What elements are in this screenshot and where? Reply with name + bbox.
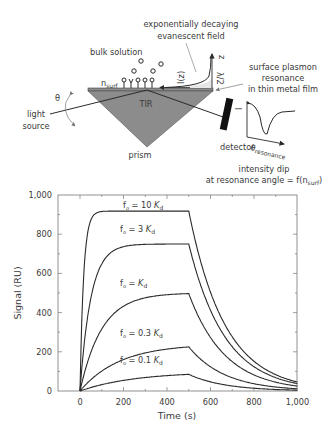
spr-diagram: exponentially decaying evanescent field … (22, 19, 322, 186)
dip-caption-line2: at resonance angle = f(nsurf) (206, 175, 323, 186)
light-source-label-line2: source (22, 121, 49, 131)
evanescent-pointer (186, 43, 196, 72)
x-tick-label: 400 (159, 397, 175, 407)
lambda-label: λ/2 (215, 72, 225, 85)
detector (220, 98, 234, 131)
inset-i-label: I (234, 108, 244, 110)
y-tick-label: 1,000 (29, 190, 52, 200)
curve-label: fo = 0.1 Kd (120, 355, 163, 366)
light-source-label-line1: light (27, 109, 46, 119)
figure: exponentially decaying evanescent field … (0, 0, 332, 437)
x-tick-label: 1,000 (286, 397, 309, 407)
prism-label: prism (128, 150, 151, 160)
plot-frame (58, 195, 297, 391)
nsurf-label: nsurf (101, 78, 119, 89)
analyte-molecules (132, 59, 163, 73)
decay-curve (165, 58, 211, 88)
y-tick-label: 600 (36, 268, 52, 278)
y-tick-label: 200 (36, 347, 52, 357)
curve-label: fo = 10 Kd (123, 200, 163, 211)
axis-ticks (58, 195, 297, 391)
evanescent-title-line1: exponentially decaying (143, 19, 238, 29)
y-tick-label: 0 (47, 386, 52, 396)
spr-pointer (216, 84, 243, 90)
curve-labels: fo = 10 Kdfo = 3 Kdfo = Kdfo = 0.3 Kdfo … (120, 200, 163, 366)
metal-film (88, 88, 213, 91)
x-tick-label: 800 (246, 397, 262, 407)
dip-caption-line1: intensity dip (239, 164, 290, 174)
surface-receptors (122, 78, 154, 88)
z-label: z (217, 55, 227, 59)
y-tick-label: 400 (36, 308, 52, 318)
binding-curves (80, 211, 298, 391)
theta-label: θ (55, 93, 60, 103)
y-axis-title: Signal (RU) (12, 266, 23, 319)
rotation-arrow-icon (65, 95, 75, 126)
curve-label: fo = 0.3 Kd (120, 328, 163, 339)
bulk-solution-label: bulk solution (90, 47, 142, 57)
spr-label-line1: surface plasmon (249, 62, 317, 72)
curve-label: fo = 3 Kd (120, 224, 155, 235)
binding-curve (80, 294, 298, 391)
x-tick-label: 0 (77, 397, 82, 407)
tir-label: TIR (138, 99, 152, 109)
y-tick-label: 800 (36, 229, 52, 239)
x-axis-title: Time (s) (157, 410, 197, 421)
spr-label-line3: in thin metal film (248, 84, 318, 94)
x-tick-label: 600 (203, 397, 219, 407)
binding-curve (80, 374, 298, 391)
spr-label-line2: resonance (262, 73, 304, 83)
iz-label: I(z) (176, 71, 186, 84)
x-tick-label: 200 (116, 397, 132, 407)
theta-resonance-label: θresonance (249, 142, 287, 160)
dip-curve (248, 103, 295, 134)
binding-chart: 02004006008001,00002004006008001,000 Tim… (12, 190, 309, 421)
curve-label: fo = Kd (120, 278, 147, 289)
evanescent-title-line2: evanescent field (157, 31, 225, 41)
